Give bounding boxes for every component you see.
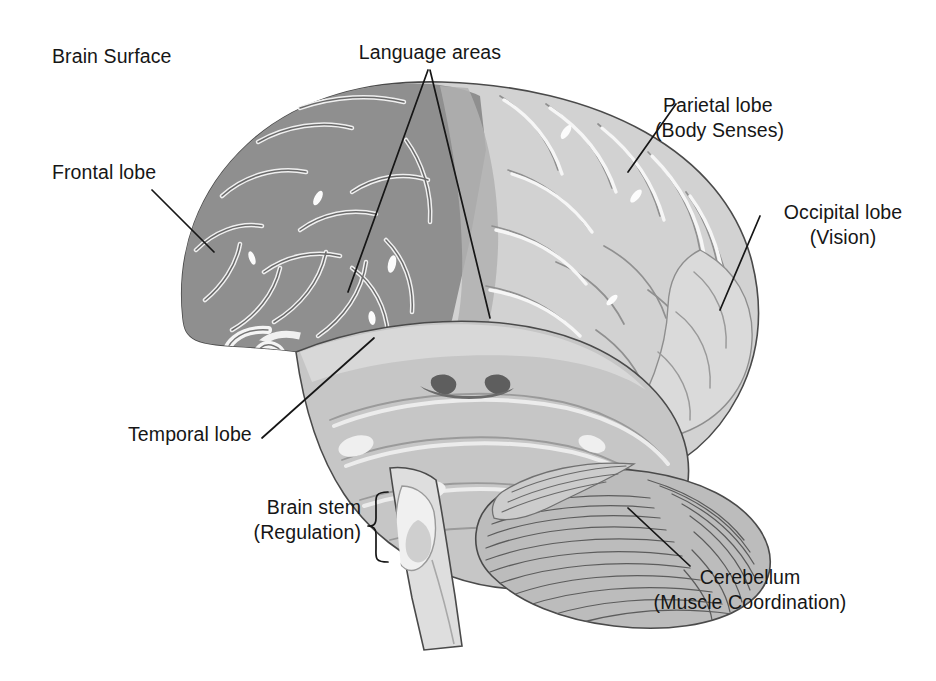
label-cerebellum-line1: Cerebellum — [600, 565, 900, 590]
label-brain-stem-line2: (Regulation) — [193, 520, 361, 545]
label-parietal-lobe-line2: (Body Senses) — [655, 118, 784, 143]
label-cerebellum-line2: (Muscle Coordination) — [600, 590, 900, 615]
label-occipital-lobe-line2: (Vision) — [763, 225, 923, 250]
label-occipital-lobe-line1: Occipital lobe — [763, 200, 923, 225]
label-frontal-lobe: Frontal lobe — [52, 160, 156, 185]
brain-diagram-figure: Brain Surface Language areas Frontal lob… — [0, 0, 936, 681]
figure-title: Brain Surface — [52, 44, 171, 69]
label-temporal-lobe: Temporal lobe — [128, 422, 252, 447]
label-parietal-lobe-line1: Parietal lobe — [663, 93, 773, 118]
label-brain-stem-line1: Brain stem — [193, 495, 361, 520]
label-language-areas: Language areas — [358, 40, 502, 65]
